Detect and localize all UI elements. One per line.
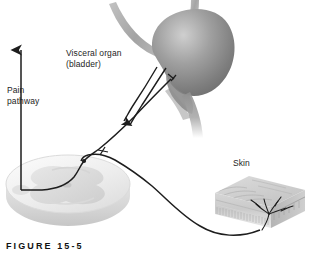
anatomy-illustration [0,0,313,260]
figure-container: Visceral organ (bladder) Pain pathway Sk… [0,0,313,260]
label-visceral-organ: Visceral organ (bladder) [66,48,122,69]
referred-pain-direction-arrow [124,67,166,125]
figure-caption: FIGURE 15-5 [6,241,84,251]
label-skin: Skin [233,158,250,169]
bladder-group [109,0,235,138]
skin-block-group [215,176,305,228]
label-pain-pathway: Pain pathway [7,85,39,106]
bladder-body [152,9,235,96]
